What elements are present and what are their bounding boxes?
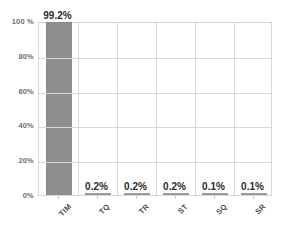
x-tick-mark xyxy=(58,196,59,199)
bar[interactable] xyxy=(124,193,150,195)
x-tick-label: TIM xyxy=(57,202,73,218)
y-axis: 0%20%40%60%80%100 % xyxy=(0,0,36,238)
bar-slot xyxy=(156,23,195,195)
x-tick-mark xyxy=(214,196,215,199)
x-axis: TIMTQTRSTSQSR xyxy=(38,196,272,238)
bar[interactable] xyxy=(241,193,267,195)
bar-slot xyxy=(117,23,156,195)
bar-value-label: 0.1% xyxy=(233,181,272,192)
y-tick-label: 40% xyxy=(0,122,34,130)
y-tick-label: 80% xyxy=(0,53,34,61)
x-tick-label: ST xyxy=(176,202,190,216)
bar-value-label: 0.1% xyxy=(194,181,233,192)
bar-value-label: 0.2% xyxy=(116,181,155,192)
bar-slot xyxy=(39,23,78,195)
x-tick-mark xyxy=(175,196,176,199)
bar-slot xyxy=(78,23,117,195)
gridline-vertical xyxy=(156,23,157,195)
bar-value-label: 0.2% xyxy=(77,181,116,192)
bar-slot xyxy=(195,23,234,195)
bar[interactable] xyxy=(46,22,72,195)
bars-layer xyxy=(39,23,271,195)
gridline-horizontal xyxy=(39,127,271,128)
y-tick-label: 20% xyxy=(0,157,34,165)
bar-slot xyxy=(234,23,273,195)
x-tick-label: SR xyxy=(254,202,268,216)
y-tick-label: 60% xyxy=(0,88,34,96)
gridline-horizontal xyxy=(39,58,271,59)
plot-area xyxy=(38,22,272,196)
x-tick-mark xyxy=(253,196,254,199)
gridline-horizontal xyxy=(39,93,271,94)
y-tick-label: 100 % xyxy=(0,18,34,26)
bar[interactable] xyxy=(163,193,189,195)
x-tick-label: SQ xyxy=(214,202,228,216)
gridline-horizontal xyxy=(39,162,271,163)
bar-chart: 0%20%40%60%80%100 % 99.2%0.2%0.2%0.2%0.1… xyxy=(0,0,289,238)
x-tick-label: TQ xyxy=(98,202,112,216)
x-tick-mark xyxy=(97,196,98,199)
bar[interactable] xyxy=(85,193,111,195)
gridline-vertical xyxy=(234,23,235,195)
y-tick-label: 0% xyxy=(0,192,34,200)
gridline-vertical xyxy=(117,23,118,195)
gridline-vertical xyxy=(195,23,196,195)
x-tick-label: TR xyxy=(137,202,151,216)
x-tick-mark xyxy=(136,196,137,199)
bar-value-label: 99.2% xyxy=(38,10,77,21)
bar-value-label: 0.2% xyxy=(155,181,194,192)
gridline-vertical xyxy=(78,23,79,195)
bar[interactable] xyxy=(202,193,228,195)
